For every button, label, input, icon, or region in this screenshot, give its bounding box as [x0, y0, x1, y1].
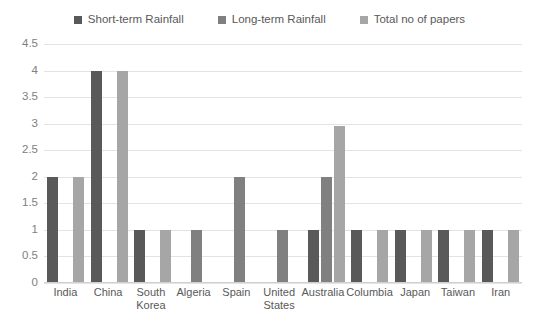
bar-group — [131, 44, 174, 283]
chart-legend: Short-term RainfallLong-term RainfallTot… — [0, 14, 539, 26]
bar-slot — [264, 44, 275, 283]
bar[interactable] — [351, 230, 362, 283]
x-axis-tick-label: Australia — [301, 286, 346, 312]
bar-chart: Short-term RainfallLong-term RainfallTot… — [0, 0, 539, 326]
x-axis: IndiaChinaSouth KoreaAlgeriaSpainUnited … — [44, 286, 522, 312]
x-axis-tick-label: South Korea — [130, 286, 173, 312]
bar[interactable] — [377, 230, 388, 283]
legend-item-3[interactable]: Total no of papers — [360, 14, 465, 26]
bar-slot — [290, 44, 301, 283]
bar-slot — [160, 44, 171, 283]
bar-slot — [451, 44, 462, 283]
bar[interactable] — [334, 126, 345, 283]
y-axis-tick-label: 2.5 — [22, 144, 38, 156]
bar[interactable] — [308, 230, 319, 283]
bar-slot — [178, 44, 189, 283]
x-axis-tick-label: United States — [258, 286, 301, 312]
bar[interactable] — [73, 177, 84, 283]
bar-slot — [204, 44, 215, 283]
bar-slot — [351, 44, 362, 283]
x-axis-tick-label: Iran — [479, 286, 522, 312]
bar-group — [479, 44, 522, 283]
bar-slot — [421, 44, 432, 283]
y-axis-tick-label: 3 — [32, 118, 38, 130]
bar-group — [174, 44, 217, 283]
bar-slot — [495, 44, 506, 283]
bar-group — [435, 44, 478, 283]
y-axis-tick-label: 0 — [32, 277, 38, 289]
bar[interactable] — [421, 230, 432, 283]
bar[interactable] — [464, 230, 475, 283]
bar-slot — [234, 44, 245, 283]
x-axis-tick-label: China — [87, 286, 130, 312]
x-axis-tick-label: Algeria — [172, 286, 215, 312]
bar[interactable] — [134, 230, 145, 283]
bar-slot — [438, 44, 449, 283]
y-axis-tick-label: 1.5 — [22, 198, 38, 210]
bar-slot — [308, 44, 319, 283]
bar-slot — [464, 44, 475, 283]
x-axis-line — [44, 282, 522, 283]
bar-slot — [147, 44, 158, 283]
bar-slot — [395, 44, 406, 283]
x-axis-tick-label: Columbia — [345, 286, 393, 312]
legend-label: Short-term Rainfall — [88, 14, 184, 26]
bar-slot — [47, 44, 58, 283]
bar[interactable] — [482, 230, 493, 283]
bar-group — [305, 44, 348, 283]
bar-slot — [508, 44, 519, 283]
bar[interactable] — [117, 71, 128, 283]
legend-swatch-icon — [360, 16, 368, 24]
bar-slot — [221, 44, 232, 283]
bar-group — [392, 44, 435, 283]
bar[interactable] — [160, 230, 171, 283]
bar-group — [44, 44, 87, 283]
bar-slot — [191, 44, 202, 283]
bar[interactable] — [47, 177, 58, 283]
bar-slot — [334, 44, 345, 283]
bar-slot — [277, 44, 288, 283]
bar[interactable] — [508, 230, 519, 283]
bar-group — [218, 44, 261, 283]
y-axis-tick-label: 0.5 — [22, 251, 38, 263]
bars-layer — [44, 44, 522, 283]
bar-slot — [60, 44, 71, 283]
y-axis-tick-label: 3.5 — [22, 91, 38, 103]
x-axis-tick-label: Japan — [394, 286, 437, 312]
y-axis-tick-label: 2 — [32, 171, 38, 183]
bar-slot — [364, 44, 375, 283]
x-axis-tick-label: Spain — [215, 286, 258, 312]
bar[interactable] — [395, 230, 406, 283]
bar-group — [87, 44, 130, 283]
bar-slot — [408, 44, 419, 283]
bar-slot — [321, 44, 332, 283]
bar-slot — [91, 44, 102, 283]
bar-slot — [482, 44, 493, 283]
bar-slot — [104, 44, 115, 283]
bar[interactable] — [277, 230, 288, 283]
legend-swatch-icon — [218, 16, 226, 24]
legend-label: Long-term Rainfall — [232, 14, 326, 26]
legend-swatch-icon — [74, 16, 82, 24]
y-axis-tick-label: 4.5 — [22, 38, 38, 50]
bar-slot — [73, 44, 84, 283]
gridline — [44, 283, 522, 284]
y-axis-tick-label: 4 — [32, 65, 38, 77]
bar[interactable] — [438, 230, 449, 283]
bar-slot — [134, 44, 145, 283]
bar[interactable] — [321, 177, 332, 283]
legend-label: Total no of papers — [374, 14, 465, 26]
bar[interactable] — [191, 230, 202, 283]
y-axis: 00.511.522.533.544.5 — [0, 44, 38, 283]
bar-group — [261, 44, 304, 283]
bar[interactable] — [234, 177, 245, 283]
x-axis-tick-label: Taiwan — [437, 286, 480, 312]
bar-slot — [377, 44, 388, 283]
legend-item-1[interactable]: Short-term Rainfall — [74, 14, 184, 26]
bar-slot — [247, 44, 258, 283]
bar-group — [348, 44, 391, 283]
legend-item-2[interactable]: Long-term Rainfall — [218, 14, 326, 26]
plot-area — [44, 44, 522, 283]
bar[interactable] — [91, 71, 102, 283]
y-axis-tick-label: 1 — [32, 224, 38, 236]
